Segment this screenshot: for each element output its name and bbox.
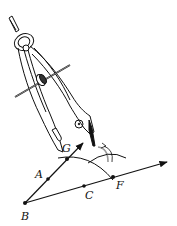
construction-diagram: B A G C F (0, 0, 177, 226)
point-g (65, 157, 69, 161)
ray-bf (25, 162, 167, 203)
diagram-canvas: B A G C F (0, 0, 177, 226)
label-b: B (20, 210, 29, 223)
ray-bg (25, 143, 83, 203)
compass-icon (9, 16, 95, 152)
label-a: A (34, 168, 43, 181)
label-g: G (62, 142, 71, 155)
label-f: F (115, 179, 124, 192)
point-b (23, 201, 27, 205)
point-f (111, 175, 115, 179)
rays (25, 143, 167, 203)
point-a (46, 177, 50, 181)
rotation-arrow-icon (98, 143, 112, 162)
point-c (82, 184, 86, 188)
label-c: C (85, 189, 94, 202)
